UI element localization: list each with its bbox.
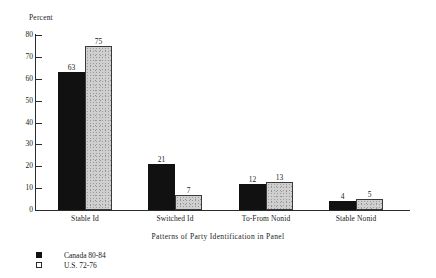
bar: 13: [266, 182, 293, 210]
y-axis-tick-mark: [36, 123, 42, 124]
y-axis-title: Percent: [29, 13, 53, 22]
legend-swatch-hollow-square-icon: [36, 262, 42, 268]
bar-value-label: 21: [158, 155, 166, 164]
plot-area: 01020304050607080 6375217121345 Stable I…: [35, 35, 410, 210]
y-axis-tick-label: 60: [26, 74, 34, 83]
legend-item-us: U.S. 72-76: [36, 260, 106, 270]
bar: 12: [239, 184, 266, 210]
y-axis-tick-label: 10: [26, 183, 34, 192]
y-axis-tick-label: 0: [29, 205, 33, 214]
bar: 63: [58, 72, 85, 210]
bar: 5: [356, 199, 383, 210]
x-axis-title: Patterns of Party Identification in Pane…: [0, 232, 436, 241]
bar: 4: [329, 201, 356, 210]
y-axis-tick-mark: [36, 79, 42, 80]
x-axis-category-label: Switched Id: [130, 214, 220, 223]
y-axis-tick-mark: [36, 144, 42, 145]
y-axis-tick-mark: [36, 57, 42, 58]
bar-value-label: 63: [68, 63, 76, 72]
x-axis-category-label: Stable Id: [40, 214, 130, 223]
y-axis-tick-mark: [36, 166, 42, 167]
bar-value-label: 7: [187, 186, 191, 195]
bar-value-label: 4: [341, 192, 345, 201]
x-axis-line: [35, 210, 410, 211]
chart-legend: Canada 80-84 U.S. 72-76: [36, 250, 106, 270]
y-axis-tick-mark: [36, 35, 42, 36]
y-axis-tick-label: 40: [26, 118, 34, 127]
y-axis-tick-label: 80: [26, 30, 34, 39]
legend-label-canada: Canada 80-84: [64, 251, 106, 260]
y-axis-tick-mark: [36, 210, 42, 211]
y-axis-tick-mark: [36, 101, 42, 102]
bar-value-label: 5: [368, 190, 372, 199]
y-axis-tick-label: 30: [26, 139, 34, 148]
y-axis-tick-label: 70: [26, 52, 34, 61]
bar: 75: [85, 46, 112, 210]
bar-value-label: 12: [249, 175, 257, 184]
x-axis-category-label: Stable Nonid: [311, 214, 401, 223]
legend-item-canada: Canada 80-84: [36, 250, 106, 260]
x-axis-category-label: To-From Nonid: [221, 214, 311, 223]
legend-swatch-filled-square-icon: [36, 252, 42, 258]
bar-chart-figure: Percent 01020304050607080 6375217121345 …: [0, 0, 436, 278]
legend-label-us: U.S. 72-76: [64, 261, 97, 270]
y-axis-tick-label: 50: [26, 96, 34, 105]
bar: 21: [148, 164, 175, 210]
bar: 7: [175, 195, 202, 210]
y-axis-tick-label: 20: [26, 161, 34, 170]
y-axis-tick-mark: [36, 188, 42, 189]
bar-value-label: 13: [276, 173, 284, 182]
bar-value-label: 75: [95, 37, 103, 46]
